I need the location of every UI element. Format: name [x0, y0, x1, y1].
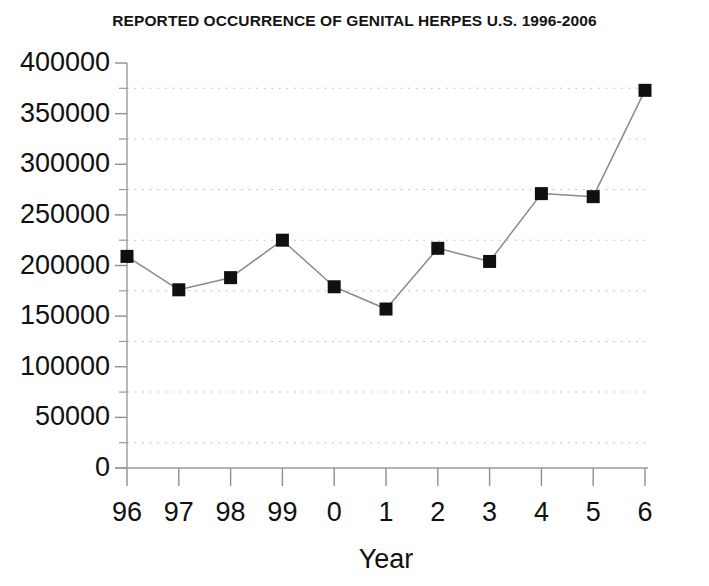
y-axis-tick-label: 400000 — [20, 49, 110, 76]
x-axis — [115, 468, 648, 486]
y-axis-tick-label: 0 — [95, 454, 110, 481]
y-axis-tick-label: 250000 — [20, 201, 110, 228]
chart-figure: REPORTED OCCURRENCE OF GENITAL HERPES U.… — [0, 0, 709, 586]
data-point-marker — [224, 271, 237, 284]
data-point-marker — [483, 255, 496, 268]
data-point-marker — [431, 242, 444, 255]
data-series — [121, 84, 652, 316]
data-point-marker — [380, 303, 393, 316]
data-point-marker — [276, 234, 289, 247]
data-point-marker — [121, 250, 134, 263]
data-point-marker — [639, 84, 652, 97]
x-axis-tick-label: 6 — [615, 499, 675, 526]
y-axis — [115, 63, 127, 468]
y-axis-tick-label: 100000 — [20, 353, 110, 380]
y-axis-tick-label: 300000 — [20, 150, 110, 177]
y-axis-tick-label: 150000 — [20, 302, 110, 329]
series-line — [127, 90, 645, 309]
y-axis-tick-label: 350000 — [20, 100, 110, 127]
data-point-marker — [587, 190, 600, 203]
data-point-marker — [328, 280, 341, 293]
y-axis-tick-label: 50000 — [35, 403, 110, 430]
data-point-marker — [172, 283, 185, 296]
data-point-marker — [535, 187, 548, 200]
x-axis-title: Year — [67, 544, 705, 575]
gridlines — [127, 88, 648, 442]
y-axis-tick-label: 200000 — [20, 252, 110, 279]
